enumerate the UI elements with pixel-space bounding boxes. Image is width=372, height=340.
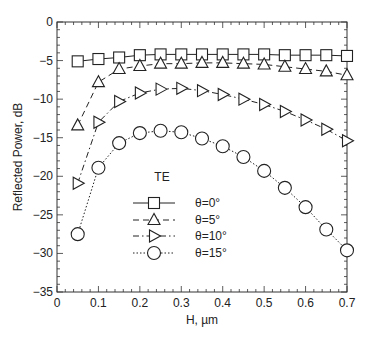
legend-circle-icon (148, 247, 161, 260)
legend: TEθ=0°θ=5°θ=10°θ=15° (133, 170, 227, 260)
triangle-right-marker (239, 93, 250, 105)
circle-marker (216, 140, 229, 153)
circle-marker (196, 132, 209, 145)
legend-label: θ=0° (195, 196, 220, 210)
triangle-right-marker (322, 123, 333, 135)
x-tick-label: 0.6 (297, 296, 314, 310)
legend-label: θ=10° (195, 229, 227, 243)
reflected-power-chart: 00.10.20.30.40.50.60.70−5−10−15−20−25−30… (0, 0, 372, 340)
x-tick-label: 0.4 (214, 296, 231, 310)
triangle-up-marker (72, 119, 84, 130)
triangle-right-marker (156, 83, 167, 95)
circle-marker (258, 164, 271, 177)
triangle-up-marker (92, 76, 104, 87)
legend-square-icon (149, 198, 160, 209)
triangle-right-marker (280, 105, 291, 117)
y-axis-label: Reflected Power, dB (11, 103, 25, 212)
y-tick-label: −30 (33, 246, 54, 260)
legend-label: θ=5° (195, 213, 220, 227)
y-tick-label: −5 (39, 54, 53, 68)
circle-marker (299, 201, 312, 214)
x-tick-label: 0 (54, 296, 61, 310)
triangle-up-marker (113, 63, 125, 74)
square-marker (114, 52, 125, 63)
x-tick-label: 0.3 (173, 296, 190, 310)
triangle-up-marker (279, 60, 291, 71)
legend-triangle-right-icon (150, 230, 161, 242)
x-tick-label: 0.5 (256, 296, 273, 310)
triangle-right-marker (198, 85, 209, 97)
square-marker (279, 50, 290, 61)
y-tick-label: −10 (33, 92, 54, 106)
triangle-right-marker (301, 114, 312, 126)
triangle-up-marker (341, 69, 353, 80)
triangle-up-marker (300, 63, 312, 74)
circle-marker (237, 151, 250, 164)
y-tick-label: −25 (33, 208, 54, 222)
series-square (72, 49, 352, 67)
circle-marker (320, 223, 333, 236)
triangle-right-marker (260, 99, 271, 111)
y-tick-label: −20 (33, 169, 54, 183)
circle-marker (154, 124, 167, 137)
y-tick-label: 0 (46, 15, 53, 29)
circle-marker (113, 137, 126, 150)
triangle-right-marker (177, 82, 188, 94)
square-marker (300, 50, 311, 61)
square-marker (342, 50, 353, 61)
circle-marker (278, 181, 291, 194)
x-tick-label: 0.7 (339, 296, 356, 310)
legend-triangle-up-icon (148, 214, 160, 225)
circle-marker (133, 127, 146, 140)
triangle-right-marker (343, 135, 354, 147)
triangle-right-marker (115, 95, 126, 107)
series-triangle-right (73, 82, 353, 189)
triangle-right-marker (218, 89, 229, 101)
square-marker (321, 50, 332, 61)
legend-label: θ=15° (195, 246, 227, 260)
x-axis-label: H, µm (186, 313, 218, 327)
x-tick-label: 0.1 (90, 296, 107, 310)
legend-title: TE (154, 170, 169, 184)
circle-marker (92, 161, 105, 174)
x-tick-label: 0.2 (132, 296, 149, 310)
y-tick-label: −35 (33, 285, 54, 299)
triangle-up-marker (320, 65, 332, 76)
circle-marker (341, 244, 354, 257)
y-tick-label: −15 (33, 131, 54, 145)
square-marker (72, 56, 83, 67)
circle-marker (71, 228, 84, 241)
circle-marker (175, 126, 188, 139)
square-marker (93, 54, 104, 65)
triangle-right-marker (135, 87, 146, 99)
